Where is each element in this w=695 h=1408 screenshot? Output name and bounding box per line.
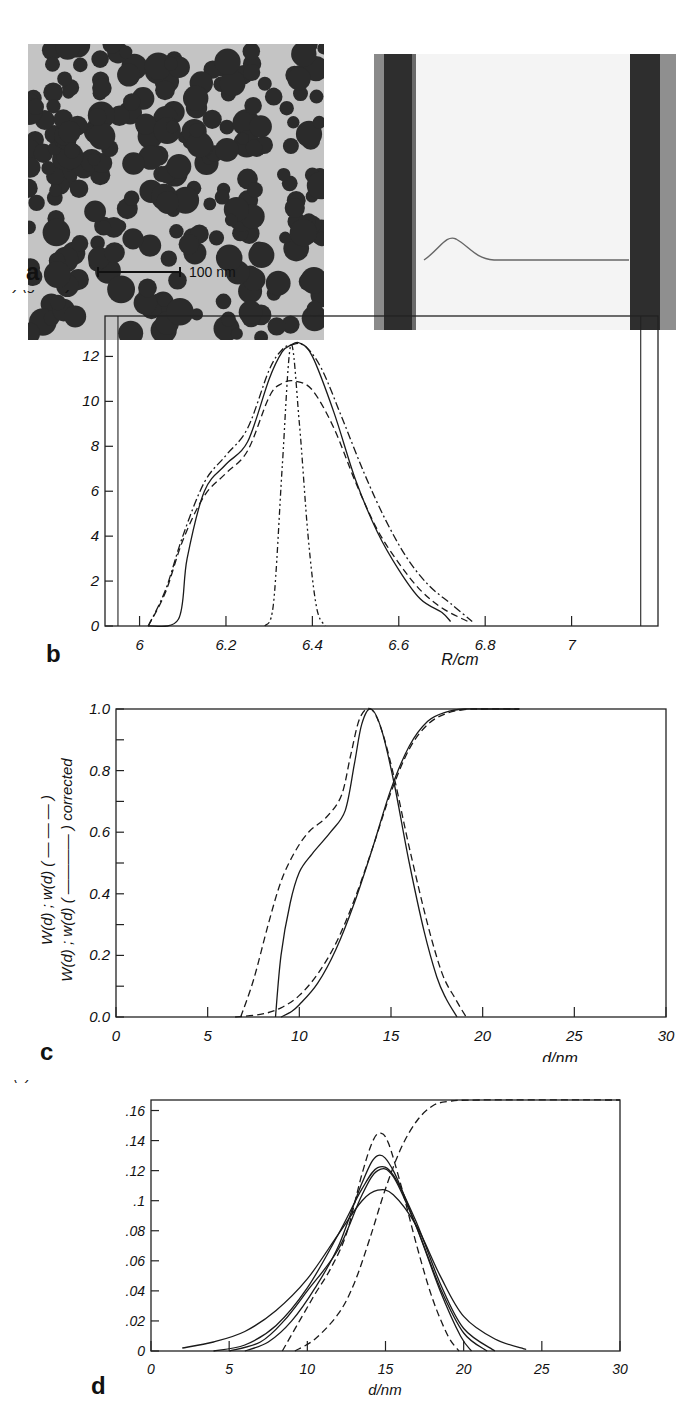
y-tick-label: 0.8 <box>89 762 111 779</box>
chart-panel-c: 0.00.20.40.60.81.0051015202530d/nmW(d) ;… <box>0 690 695 1062</box>
x-tick-label: 25 <box>565 1027 583 1044</box>
x-tick-label: 30 <box>658 1027 675 1044</box>
x-tick-label: 25 <box>533 1361 550 1377</box>
y-tick-label: 10 <box>82 392 99 409</box>
y-axis-label: w(d) W(d) <box>0 1080 31 1083</box>
data-series <box>281 709 519 1017</box>
y-tick-label: .06 <box>126 1253 146 1269</box>
y-tick-label: 8 <box>91 437 100 454</box>
y-tick-label: .1 <box>133 1193 145 1209</box>
scale-bar <box>97 266 183 278</box>
plot-frame <box>151 1100 620 1351</box>
y-tick-label: 0.0 <box>89 1008 111 1025</box>
data-series <box>282 1133 459 1351</box>
data-series <box>235 709 519 1017</box>
y-axis-label: 1000 (dC/dR)/(g/cm⁴) <box>0 290 72 293</box>
schlieren-graphic <box>374 54 676 330</box>
x-tick-label: 5 <box>203 1027 212 1044</box>
plot-frame <box>105 316 658 626</box>
x-tick-label: 15 <box>383 1027 400 1044</box>
y-tick-label: .16 <box>126 1103 146 1119</box>
x-tick-label: 0 <box>112 1027 121 1044</box>
y-tick-label: 6 <box>91 482 100 499</box>
x-tick-label: 7 <box>567 636 576 653</box>
x-tick-label: 6.4 <box>302 636 323 653</box>
x-axis-label: d/nm <box>368 1381 401 1398</box>
x-axis-label: R/cm <box>441 651 478 668</box>
data-series <box>245 1155 472 1351</box>
y-tick-label: 0.4 <box>89 885 110 902</box>
data-series <box>148 381 468 626</box>
y-axis-label: W(d) ; w(d) ( ———— ) corrected <box>58 758 75 982</box>
schlieren-image <box>374 54 676 330</box>
y-tick-label: .02 <box>126 1313 146 1329</box>
data-series <box>148 343 472 626</box>
panel-label-a: a <box>26 258 39 286</box>
x-tick-label: 20 <box>455 1361 472 1377</box>
data-series <box>241 708 467 1017</box>
data-series <box>148 342 450 626</box>
x-tick-label: 15 <box>378 1361 394 1377</box>
data-series <box>276 709 458 1017</box>
x-axis-label: d/nm <box>542 1050 578 1062</box>
y-tick-label: 0.6 <box>89 823 111 840</box>
y-tick-label: .04 <box>126 1283 146 1299</box>
y-tick-label: 4 <box>91 527 99 544</box>
x-tick-label: 6.6 <box>388 636 410 653</box>
chart-panel-d: 0.02.04.06.08.1.12.14.16051015202530d/nm… <box>0 1080 695 1408</box>
data-series <box>214 1167 495 1351</box>
y-tick-label: 12 <box>82 347 99 364</box>
y-tick-label: 0.2 <box>89 946 111 963</box>
x-tick-label: 10 <box>300 1361 316 1377</box>
x-tick-label: 10 <box>291 1027 308 1044</box>
x-tick-label: 6.2 <box>216 636 238 653</box>
y-tick-label: .14 <box>126 1133 146 1149</box>
panel-label-d: d <box>91 1372 106 1400</box>
x-tick-label: 20 <box>473 1027 491 1044</box>
x-tick-label: 0 <box>147 1361 155 1377</box>
data-series <box>265 344 325 626</box>
y-tick-label: 0 <box>91 617 100 634</box>
scale-bar-label: 100 nm <box>189 264 236 280</box>
plot-frame <box>116 709 666 1017</box>
y-tick-label: 0 <box>137 1343 145 1359</box>
x-tick-label: 5 <box>225 1361 233 1377</box>
y-tick-label: 1.0 <box>89 700 111 717</box>
x-tick-label: 6 <box>135 636 144 653</box>
y-tick-label: .08 <box>126 1223 146 1239</box>
y-tick-label: 2 <box>90 572 100 589</box>
x-tick-label: 30 <box>612 1361 628 1377</box>
chart-panel-b: 02468101266.26.46.66.87R/cm1000 (dC/dR)/… <box>0 290 695 680</box>
panel-label-c: c <box>40 1038 53 1066</box>
y-axis-label: W(d) ; w(d) ( — — — ) <box>38 795 55 945</box>
panel-label-b: b <box>46 640 61 668</box>
y-tick-label: .12 <box>126 1163 146 1179</box>
